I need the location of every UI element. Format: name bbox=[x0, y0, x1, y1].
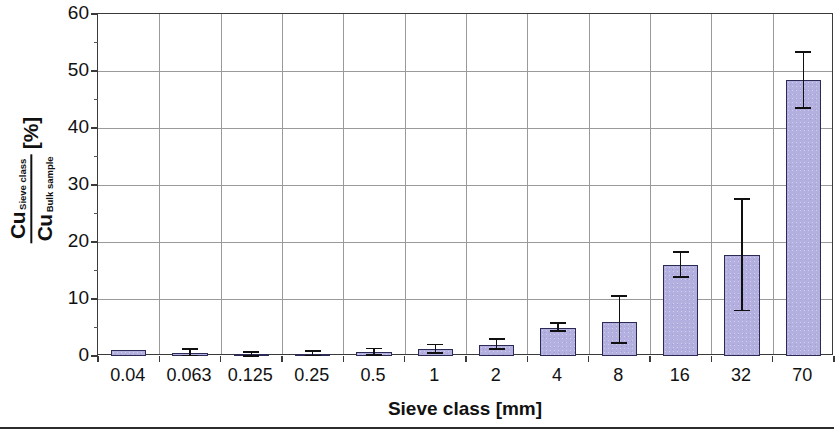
gridline bbox=[589, 14, 590, 354]
gridline bbox=[98, 299, 832, 300]
x-tick-mark bbox=[772, 356, 774, 362]
x-tick-label: 8 bbox=[583, 365, 653, 386]
x-tick-label: 4 bbox=[522, 365, 592, 386]
error-bar-cap-lower bbox=[305, 355, 321, 357]
y-minor-tick bbox=[94, 213, 98, 214]
y-tick-mark bbox=[91, 298, 98, 300]
error-bar-line bbox=[619, 296, 621, 343]
x-tick-label: 0.04 bbox=[93, 365, 163, 386]
y-tick-mark bbox=[91, 127, 98, 129]
error-bar-cap-lower bbox=[550, 330, 566, 332]
error-bar-cap-upper bbox=[243, 351, 259, 353]
error-bar-cap-upper bbox=[182, 348, 198, 350]
numerator-symbol: Cu bbox=[7, 212, 28, 239]
gridline bbox=[711, 14, 712, 354]
bar bbox=[663, 265, 699, 356]
error-bar-cap-upper bbox=[305, 350, 321, 352]
y-tick-label: 10 bbox=[49, 287, 89, 309]
error-bar-cap-lower bbox=[427, 352, 443, 354]
error-bar-cap-upper bbox=[734, 198, 750, 200]
gridline bbox=[221, 14, 222, 354]
gridline bbox=[98, 185, 832, 186]
x-tick-mark bbox=[588, 356, 590, 362]
error-bar-cap-upper bbox=[611, 295, 627, 297]
error-bar-cap-upper bbox=[795, 51, 811, 53]
y-tick-mark bbox=[91, 184, 98, 186]
y-minor-tick bbox=[94, 270, 98, 271]
x-tick-mark bbox=[527, 356, 529, 362]
gridline bbox=[650, 14, 651, 354]
x-tick-mark bbox=[404, 356, 406, 362]
fraction-numerator: Cu Sieve class bbox=[6, 157, 29, 241]
gridline bbox=[282, 14, 283, 354]
gridline bbox=[98, 242, 832, 243]
gridline bbox=[159, 14, 160, 354]
gridline bbox=[466, 14, 467, 354]
y-tick-label: 50 bbox=[49, 59, 89, 81]
error-bar-cap-lower bbox=[734, 310, 750, 312]
error-bar-cap-lower bbox=[366, 354, 382, 356]
y-tick-label: 40 bbox=[49, 116, 89, 138]
x-tick-label: 1 bbox=[399, 365, 469, 386]
error-bar-line bbox=[680, 252, 682, 278]
error-bar-cap-upper bbox=[366, 348, 382, 350]
x-tick-mark bbox=[343, 356, 345, 362]
x-axis-title: Sieve class [mm] bbox=[97, 398, 833, 420]
error-bar-cap-upper bbox=[550, 322, 566, 324]
error-bar-cap-lower bbox=[611, 342, 627, 344]
error-bar-line bbox=[741, 199, 743, 311]
x-tick-mark bbox=[159, 356, 161, 362]
x-tick-mark bbox=[833, 356, 835, 362]
plot-area bbox=[97, 13, 833, 355]
y-tick-label: 30 bbox=[49, 173, 89, 195]
y-tick-label: 60 bbox=[49, 2, 89, 24]
gridline bbox=[527, 14, 528, 354]
y-tick-label: 20 bbox=[49, 230, 89, 252]
error-bar-cap-lower bbox=[182, 355, 198, 357]
x-tick-label: 0.5 bbox=[338, 365, 408, 386]
x-tick-mark bbox=[711, 356, 713, 362]
x-tick-label: 2 bbox=[461, 365, 531, 386]
x-tick-label: 32 bbox=[706, 365, 776, 386]
fraction-bar bbox=[30, 154, 32, 243]
y-tick-mark bbox=[91, 13, 98, 15]
y-minor-tick bbox=[94, 156, 98, 157]
x-tick-label: 0.125 bbox=[215, 365, 285, 386]
x-tick-label: 0.063 bbox=[154, 365, 224, 386]
gridline bbox=[773, 14, 774, 354]
gridline bbox=[98, 71, 832, 72]
x-tick-mark bbox=[281, 356, 283, 362]
bar bbox=[786, 80, 822, 356]
x-tick-mark bbox=[97, 356, 99, 362]
x-tick-mark bbox=[220, 356, 222, 362]
gridline bbox=[405, 14, 406, 354]
y-tick-label: 0 bbox=[49, 344, 89, 366]
y-tick-mark bbox=[91, 70, 98, 72]
x-tick-label: 0.25 bbox=[277, 365, 347, 386]
x-tick-label: 16 bbox=[645, 365, 715, 386]
error-bar-cap-upper bbox=[673, 251, 689, 253]
error-bar-cap-lower bbox=[673, 276, 689, 278]
bar bbox=[111, 350, 147, 356]
y-minor-tick bbox=[94, 99, 98, 100]
x-tick-mark bbox=[465, 356, 467, 362]
y-axis-units: [%] bbox=[19, 117, 43, 150]
error-bar-cap-lower bbox=[795, 107, 811, 109]
x-tick-mark bbox=[649, 356, 651, 362]
error-bar-cap-upper bbox=[489, 338, 505, 340]
y-minor-tick bbox=[94, 327, 98, 328]
error-bar-line bbox=[803, 52, 805, 108]
error-bar-cap-upper bbox=[427, 344, 443, 346]
numerator-subscript: Sieve class bbox=[18, 159, 28, 210]
y-minor-tick bbox=[94, 42, 98, 43]
y-tick-mark bbox=[91, 241, 98, 243]
error-bar-cap-lower bbox=[489, 348, 505, 350]
gridline bbox=[98, 128, 832, 129]
gridline bbox=[343, 14, 344, 354]
error-bar-cap-lower bbox=[243, 355, 259, 357]
x-tick-label: 70 bbox=[767, 365, 837, 386]
